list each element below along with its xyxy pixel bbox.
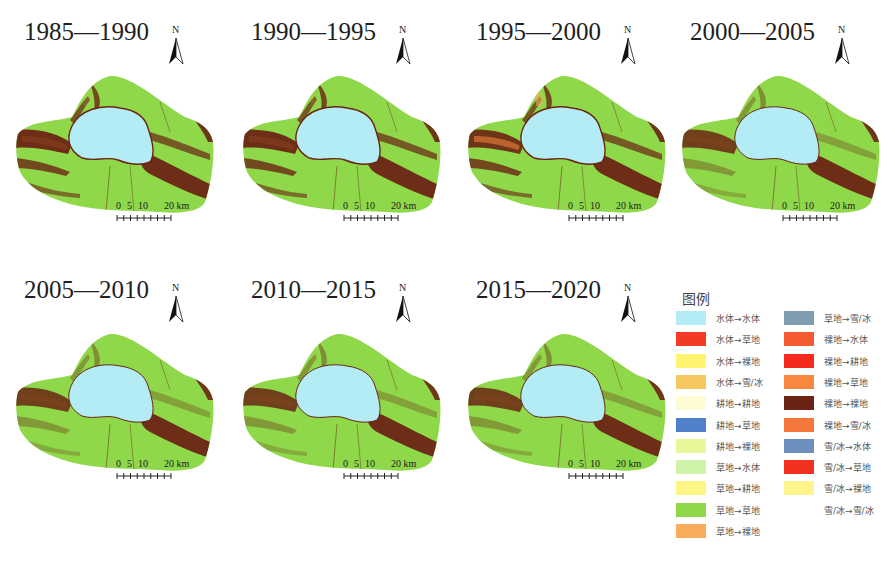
scale-label: 0 bbox=[568, 458, 573, 469]
legend-label: 裸地→水体 bbox=[824, 333, 868, 346]
scale-bar-graphic bbox=[116, 214, 172, 222]
legend-swatch bbox=[676, 524, 706, 538]
panel-title: 1995—2000 bbox=[476, 18, 601, 46]
scale-label: 0 bbox=[343, 200, 348, 211]
legend-swatch bbox=[784, 332, 814, 346]
scale-label: 5 bbox=[579, 200, 584, 211]
scale-label: 5 bbox=[793, 200, 798, 211]
scale-label: 0 bbox=[782, 200, 787, 211]
legend-item: 裸地→水体 bbox=[784, 331, 884, 347]
scale-bar-graphic bbox=[568, 214, 624, 222]
legend-swatch bbox=[676, 311, 706, 325]
legend-label: 草地→耕地 bbox=[716, 482, 760, 495]
north-label: N bbox=[172, 24, 179, 35]
scale-label: 20 km bbox=[164, 458, 189, 469]
legend-item: 水体→草地 bbox=[676, 331, 776, 347]
scale-bar: 0 5 10 20 km bbox=[343, 458, 443, 488]
scale-label: 5 bbox=[354, 458, 359, 469]
scale-label: 10 bbox=[590, 458, 600, 469]
scale-bar: 0 5 10 20 km bbox=[568, 458, 668, 488]
legend-label: 水体→水体 bbox=[716, 312, 760, 325]
north-label: N bbox=[624, 24, 631, 35]
legend-item: 水体→雪/冰 bbox=[676, 374, 776, 390]
legend-label: 耕地→裸地 bbox=[716, 440, 760, 453]
legend-label: 裸地→雪/冰 bbox=[824, 419, 871, 432]
legend-swatch bbox=[784, 396, 814, 410]
legend-item: 雪/冰→裸地 bbox=[784, 480, 884, 496]
map-panel: 2015—2020 N bbox=[462, 270, 677, 510]
legend-item: 耕地→草地 bbox=[676, 417, 776, 433]
panel-title: 2015—2020 bbox=[476, 276, 601, 304]
legend-label: 耕地→耕地 bbox=[716, 397, 760, 410]
legend-item: 耕地→耕地 bbox=[676, 395, 776, 411]
legend-swatch bbox=[784, 375, 814, 389]
scale-bar: 0 5 10 20 km bbox=[116, 458, 216, 488]
legend-swatch bbox=[676, 396, 706, 410]
legend-swatch bbox=[676, 354, 706, 368]
scale-label: 5 bbox=[127, 200, 132, 211]
scale-label: 0 bbox=[568, 200, 573, 211]
map-panel: 2000—2005 N bbox=[676, 12, 891, 252]
legend-swatch bbox=[784, 354, 814, 368]
scale-label: 5 bbox=[579, 458, 584, 469]
scale-label: 10 bbox=[138, 200, 148, 211]
legend-title: 图例 bbox=[682, 288, 710, 308]
scale-bar: 0 5 10 20 km bbox=[568, 200, 668, 230]
scale-bar-graphic bbox=[343, 214, 399, 222]
scale-label: 5 bbox=[127, 458, 132, 469]
scale-label: 20 km bbox=[391, 200, 416, 211]
legend-swatch bbox=[784, 439, 814, 453]
legend: 图例 水体→水体 水体→草地 水体→裸地 水体→雪/冰 耕地→耕地 耕地→草地 … bbox=[676, 288, 891, 558]
legend-swatch bbox=[676, 332, 706, 346]
legend-swatch bbox=[676, 503, 706, 517]
legend-item: 雪/冰→雪/冰 bbox=[784, 502, 884, 518]
legend-swatch bbox=[784, 481, 814, 495]
legend-swatch bbox=[676, 375, 706, 389]
legend-swatch bbox=[676, 460, 706, 474]
scale-label: 0 bbox=[343, 458, 348, 469]
scale-label: 10 bbox=[138, 458, 148, 469]
legend-label: 雪/冰→水体 bbox=[824, 440, 871, 453]
legend-swatch bbox=[676, 439, 706, 453]
scale-bar-graphic bbox=[782, 214, 838, 222]
legend-item: 雪/冰→水体 bbox=[784, 438, 884, 454]
map-panel: 2010—2015 N bbox=[237, 270, 452, 510]
scale-label: 10 bbox=[590, 200, 600, 211]
scale-label: 20 km bbox=[830, 200, 855, 211]
scale-label: 0 bbox=[116, 200, 121, 211]
legend-swatch bbox=[784, 311, 814, 325]
legend-label: 水体→裸地 bbox=[716, 355, 760, 368]
legend-label: 草地→水体 bbox=[716, 461, 760, 474]
scale-label: 20 km bbox=[391, 458, 416, 469]
scale-label: 20 km bbox=[164, 200, 189, 211]
legend-item: 裸地→草地 bbox=[784, 374, 884, 390]
legend-label: 裸地→裸地 bbox=[824, 397, 868, 410]
legend-item: 草地→水体 bbox=[676, 459, 776, 475]
north-label: N bbox=[399, 282, 406, 293]
north-label: N bbox=[399, 24, 406, 35]
scale-bar-graphic bbox=[568, 472, 624, 480]
north-label: N bbox=[624, 282, 631, 293]
legend-label: 耕地→草地 bbox=[716, 419, 760, 432]
scale-bar: 0 5 10 20 km bbox=[116, 200, 216, 230]
legend-item: 草地→雪/冰 bbox=[784, 310, 884, 326]
legend-label: 草地→雪/冰 bbox=[824, 312, 871, 325]
scale-bar: 0 5 10 20 km bbox=[343, 200, 443, 230]
map-panel: 1995—2000 N bbox=[462, 12, 677, 252]
north-label: N bbox=[172, 282, 179, 293]
scale-label: 20 km bbox=[616, 200, 641, 211]
legend-item: 水体→裸地 bbox=[676, 353, 776, 369]
legend-item: 裸地→雪/冰 bbox=[784, 417, 884, 433]
legend-item: 水体→水体 bbox=[676, 310, 776, 326]
legend-label: 水体→草地 bbox=[716, 333, 760, 346]
legend-label: 雪/冰→雪/冰 bbox=[824, 504, 874, 517]
legend-label: 雪/冰→裸地 bbox=[824, 482, 871, 495]
legend-label: 裸地→草地 bbox=[824, 376, 868, 389]
north-label: N bbox=[838, 24, 845, 35]
panel-title: 2005—2010 bbox=[24, 276, 149, 304]
legend-item: 草地→裸地 bbox=[676, 523, 776, 539]
scale-label: 10 bbox=[804, 200, 814, 211]
legend-label: 裸地→耕地 bbox=[824, 355, 868, 368]
legend-label: 水体→雪/冰 bbox=[716, 376, 763, 389]
scale-bar: 0 5 10 20 km bbox=[782, 200, 882, 230]
